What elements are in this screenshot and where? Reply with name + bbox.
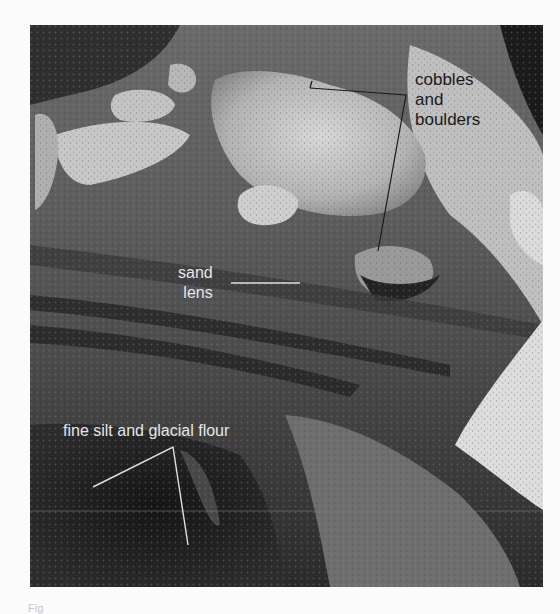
label-line: sand: [178, 263, 213, 283]
label-line: lens: [178, 283, 213, 303]
label-sand-lens: sand lens: [178, 263, 213, 303]
figure-caption: Fig: [28, 602, 43, 614]
label-line: and: [415, 90, 480, 110]
label-fine-silt-and-glacial-flour: fine silt and glacial flour: [63, 423, 229, 439]
label-line: cobbles: [415, 70, 480, 90]
label-cobbles-and-boulders: cobbles and boulders: [415, 70, 480, 130]
label-line: boulders: [415, 110, 480, 130]
